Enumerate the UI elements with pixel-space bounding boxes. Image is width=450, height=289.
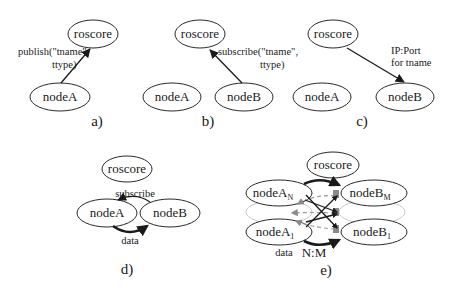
roscore-node: roscore: [68, 20, 118, 48]
svg-text:nodeB1: nodeB1: [353, 224, 391, 241]
nodeB-label: nodeB: [153, 205, 187, 220]
roscore-node: roscore: [308, 20, 358, 48]
nodeB-label: nodeB: [388, 89, 422, 104]
nodeA-label: nodeA: [155, 89, 190, 104]
roscore-label: roscore: [314, 26, 352, 41]
caption-e: e): [320, 262, 332, 279]
panel-b: roscore nodeA nodeB subscribe("tname", t…: [143, 20, 298, 130]
nodeA-N-node: nodeAN: [246, 180, 312, 206]
panel-d: roscore nodeA nodeB subscribe data d): [77, 156, 200, 278]
publish-label-line1: publish("tname",: [18, 46, 89, 58]
nodeB-node: nodeB: [140, 199, 200, 227]
data-label: data: [275, 247, 293, 258]
nodeA-node: nodeA: [77, 199, 137, 227]
nodeB-label: nodeB: [227, 89, 261, 104]
nodeB-node: nodeB: [215, 83, 273, 111]
subscribe-label: subscribe: [115, 188, 155, 199]
roscore-label: roscore: [108, 161, 146, 176]
nodeA-node: nodeA: [143, 83, 201, 111]
ip-port-label-line2: for tname: [391, 57, 432, 68]
nodeB-1-subscript: 1: [387, 232, 391, 241]
ip-port-label-line1: IP:Port: [391, 45, 421, 56]
nodeB-1-label: nodeB: [353, 224, 387, 239]
nodeB-node: nodeB: [376, 83, 434, 111]
roscore-label: roscore: [314, 157, 352, 172]
nodeB-M-node: nodeBM: [341, 180, 407, 206]
nodeA-node: nodeA: [30, 83, 90, 111]
svg-text:nodeAN: nodeAN: [253, 185, 294, 202]
roscore-label: roscore: [181, 26, 219, 41]
caption-c: c): [356, 113, 368, 130]
roscore-node: roscore: [307, 152, 359, 178]
ros-communication-diagram: roscore nodeA publish("tname", ttype) a)…: [0, 0, 450, 289]
caption-b: b): [202, 113, 215, 130]
nodeB-M-label: nodeB: [349, 185, 383, 200]
roscore-label: roscore: [74, 26, 112, 41]
panel-a: roscore nodeA publish("tname", ttype) a): [18, 20, 118, 130]
nodeA-N-label: nodeA: [253, 185, 288, 200]
nodeA-N-subscript: N: [287, 193, 293, 202]
subscribe-label-line2: ttype): [260, 59, 285, 71]
nodeB-M-subscript: M: [383, 193, 390, 202]
nodeB-1-node: nodeB1: [341, 219, 407, 245]
caption-a: a): [91, 113, 103, 130]
panel-c: roscore nodeA nodeB IP:Port for tname c): [293, 20, 434, 130]
publish-label-line2: ttype): [52, 59, 77, 71]
roscore-node: roscore: [102, 156, 152, 182]
nodeA-label: nodeA: [305, 89, 340, 104]
svg-text:nodeA1: nodeA1: [256, 224, 295, 241]
data-label: data: [121, 235, 139, 246]
nodeA-1-subscript: 1: [290, 232, 294, 241]
nodeA-label: nodeA: [90, 205, 125, 220]
nodeA-1-node: nodeA1: [246, 219, 312, 245]
subscribe-label-line1: subscribe("tname",: [218, 46, 298, 58]
roscore-node: roscore: [175, 20, 225, 48]
nodeA-1-label: nodeA: [256, 224, 291, 239]
ratio-label: N:M: [302, 245, 327, 260]
nodeA-label: nodeA: [43, 89, 78, 104]
caption-d: d): [121, 261, 134, 278]
nodeA-node: nodeA: [293, 83, 351, 111]
data-arrow: [113, 226, 147, 232]
panel-e: roscore nodeAN nodeA1 nodeBM nodeB1: [246, 152, 407, 279]
